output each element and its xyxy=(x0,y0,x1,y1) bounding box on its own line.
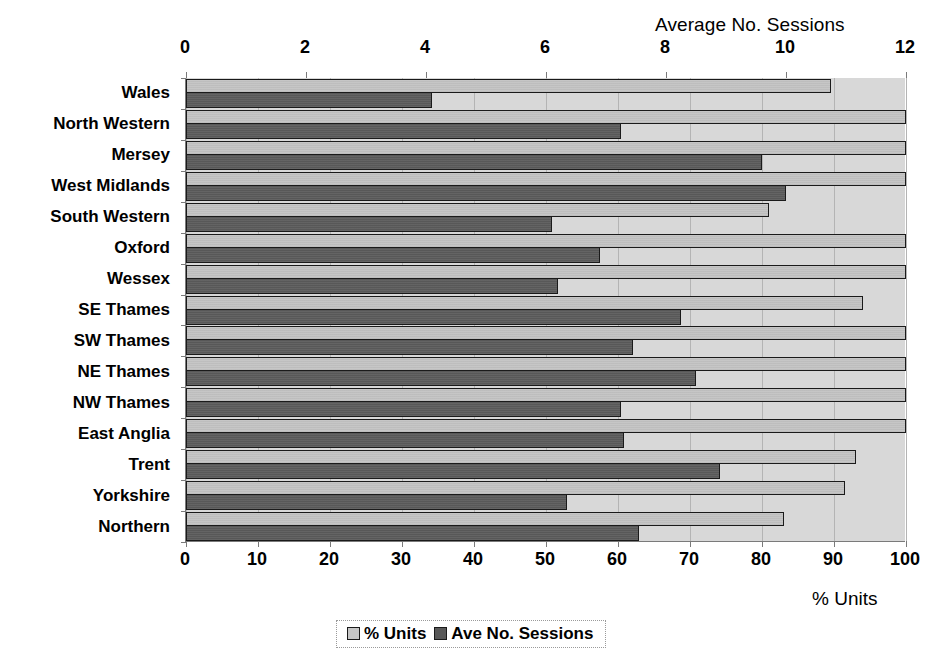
category-label-northern: Northern xyxy=(98,517,170,537)
category-label-trent: Trent xyxy=(128,455,170,475)
top-axis-tick xyxy=(906,72,907,78)
bar-units[interactable] xyxy=(186,296,863,310)
category-label-yorkshire: Yorkshire xyxy=(93,486,170,506)
bar-units[interactable] xyxy=(186,265,906,279)
top-tick-label: 10 xyxy=(775,36,795,58)
bottom-tick-label: 80 xyxy=(751,548,771,570)
x-axis-tick xyxy=(906,541,907,547)
y-axis-tick xyxy=(181,202,186,203)
bar-units[interactable] xyxy=(186,110,906,124)
bottom-tick-label: 50 xyxy=(535,548,555,570)
y-axis-tick xyxy=(181,171,186,172)
chart-legend: % Units Ave No. Sessions xyxy=(336,620,606,648)
bar-units[interactable] xyxy=(186,234,906,248)
bottom-tick-label: 30 xyxy=(391,548,411,570)
bar-sessions[interactable] xyxy=(186,123,621,139)
bar-sessions[interactable] xyxy=(186,216,552,232)
legend-swatch-sessions-icon xyxy=(434,627,447,640)
legend-item-sessions[interactable]: Ave No. Sessions xyxy=(430,624,597,643)
bar-sessions[interactable] xyxy=(186,154,762,170)
y-axis-tick xyxy=(181,78,186,79)
bar-group xyxy=(186,356,905,387)
y-axis-tick xyxy=(181,109,186,110)
bar-sessions[interactable] xyxy=(186,463,720,479)
legend-item-units[interactable]: % Units xyxy=(343,624,430,643)
bar-units[interactable] xyxy=(186,419,906,433)
bar-group xyxy=(186,511,905,542)
y-axis-tick xyxy=(181,542,186,543)
y-axis-tick xyxy=(181,418,186,419)
bar-units[interactable] xyxy=(186,388,906,402)
bar-sessions[interactable] xyxy=(186,525,639,541)
bar-units[interactable] xyxy=(186,172,906,186)
y-axis-tick xyxy=(181,449,186,450)
bottom-tick-label: 20 xyxy=(319,548,339,570)
y-axis-tick xyxy=(181,233,186,234)
bar-sessions[interactable] xyxy=(186,278,558,294)
bar-units[interactable] xyxy=(186,481,845,495)
bar-units[interactable] xyxy=(186,326,906,340)
category-label-ne-thames: NE Thames xyxy=(77,362,170,382)
bar-sessions[interactable] xyxy=(186,339,633,355)
top-axis-title: Average No. Sessions xyxy=(655,14,845,36)
y-axis-tick xyxy=(181,295,186,296)
bar-units[interactable] xyxy=(186,450,856,464)
gridline xyxy=(906,78,907,541)
category-label-north-western: North Western xyxy=(53,114,170,134)
bottom-axis-title: % Units xyxy=(812,588,877,610)
bar-group xyxy=(186,295,905,326)
category-axis-labels: WalesNorth WesternMerseyWest MidlandsSou… xyxy=(0,78,178,542)
bar-group xyxy=(186,325,905,356)
top-axis-tick-labels: 024681012 xyxy=(185,36,905,60)
bar-units[interactable] xyxy=(186,203,769,217)
bar-group xyxy=(186,171,905,202)
category-label-mersey: Mersey xyxy=(111,145,170,165)
category-label-sw-thames: SW Thames xyxy=(74,331,170,351)
y-axis-tick xyxy=(181,264,186,265)
top-tick-label: 6 xyxy=(540,36,550,58)
top-tick-label: 2 xyxy=(300,36,310,58)
bottom-tick-label: 40 xyxy=(463,548,483,570)
bar-group xyxy=(186,264,905,295)
legend-swatch-units-icon xyxy=(347,627,360,640)
top-tick-label: 0 xyxy=(180,36,190,58)
bar-group xyxy=(186,202,905,233)
plot-area xyxy=(185,78,905,542)
bar-group xyxy=(186,387,905,418)
category-label-east-anglia: East Anglia xyxy=(78,424,170,444)
bar-sessions[interactable] xyxy=(186,401,621,417)
bar-group xyxy=(186,418,905,449)
category-label-se-thames: SE Thames xyxy=(78,300,170,320)
bar-sessions[interactable] xyxy=(186,370,696,386)
bottom-axis-tick-labels: 0102030405060708090100 xyxy=(185,548,905,572)
y-axis-tick xyxy=(181,511,186,512)
category-label-south-western: South Western xyxy=(50,207,170,227)
bar-units[interactable] xyxy=(186,357,906,371)
bar-sessions[interactable] xyxy=(186,92,432,108)
y-axis-tick xyxy=(181,480,186,481)
legend-label-sessions: Ave No. Sessions xyxy=(451,624,593,643)
y-axis-tick xyxy=(181,140,186,141)
bar-sessions[interactable] xyxy=(186,309,681,325)
category-label-oxford: Oxford xyxy=(114,238,170,258)
category-label-west-midlands: West Midlands xyxy=(51,176,170,196)
bar-group xyxy=(186,78,905,109)
bar-group xyxy=(186,109,905,140)
bar-units[interactable] xyxy=(186,141,906,155)
y-axis-tick xyxy=(181,325,186,326)
top-tick-label: 12 xyxy=(895,36,915,58)
bar-group xyxy=(186,449,905,480)
bar-sessions[interactable] xyxy=(186,432,624,448)
bar-sessions[interactable] xyxy=(186,247,600,263)
y-axis-tick xyxy=(181,356,186,357)
bar-group xyxy=(186,233,905,264)
bottom-tick-label: 70 xyxy=(679,548,699,570)
bar-units[interactable] xyxy=(186,512,784,526)
top-tick-label: 8 xyxy=(660,36,670,58)
top-tick-label: 4 xyxy=(420,36,430,58)
category-label-nw-thames: NW Thames xyxy=(73,393,170,413)
bar-sessions[interactable] xyxy=(186,185,786,201)
bar-group xyxy=(186,140,905,171)
bar-units[interactable] xyxy=(186,79,831,93)
bar-sessions[interactable] xyxy=(186,494,567,510)
